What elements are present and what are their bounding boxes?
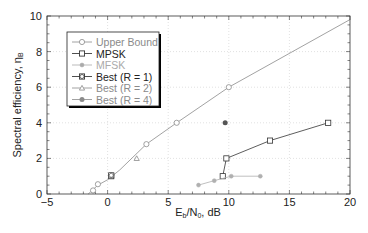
y-tick-label: 0 bbox=[36, 188, 42, 200]
legend: Upper BoundMPSKMFSKBest (R = 1)Best (R =… bbox=[67, 32, 161, 108]
x-tick-label: 0 bbox=[105, 196, 111, 208]
legend-label: MFSK bbox=[96, 59, 125, 71]
spectral-efficiency-chart: −505101520 0246810 Eb/N0, dB Spectral ef… bbox=[0, 0, 368, 233]
y-tick-label: 4 bbox=[36, 117, 42, 129]
x-tick-label: 10 bbox=[223, 196, 235, 208]
legend-label: Upper Bound bbox=[96, 36, 158, 48]
y-tick-label: 8 bbox=[36, 46, 42, 58]
x-axis-label: Eb/N0, dB bbox=[175, 206, 221, 219]
y-tick-label: 2 bbox=[36, 152, 42, 164]
series-mfsk bbox=[197, 174, 263, 187]
x-tick-label: 20 bbox=[344, 196, 356, 208]
legend-label: Best (R = 2) bbox=[96, 82, 152, 94]
legend-label: Best (R = 1) bbox=[96, 71, 152, 83]
series-best-r-4- bbox=[223, 120, 228, 125]
y-tick-label: 10 bbox=[30, 10, 42, 22]
series-mpsk bbox=[109, 120, 331, 179]
y-tick-label: 6 bbox=[36, 81, 42, 93]
y-tick-labels: 0246810 bbox=[30, 10, 42, 200]
legend-label: MPSK bbox=[96, 48, 126, 60]
y-axis-label: Spectral efficiency, ηB bbox=[11, 52, 24, 157]
x-tick-labels: −505101520 bbox=[41, 196, 356, 208]
x-tick-label: 15 bbox=[283, 196, 295, 208]
x-tick-label: 5 bbox=[165, 196, 171, 208]
x-tick-label: −5 bbox=[41, 196, 54, 208]
legend-label: Best (R = 4) bbox=[96, 94, 152, 106]
